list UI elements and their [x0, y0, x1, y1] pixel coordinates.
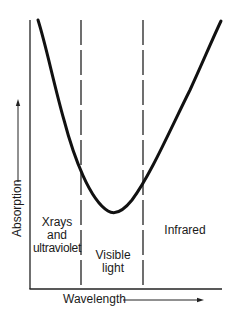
y-arrow-head-icon: [16, 99, 20, 106]
region-label-line: Infrared: [155, 224, 215, 237]
region-label-xray-uv: Xrays and ultraviolet: [31, 216, 83, 255]
region-label-visible: Visible light: [84, 249, 142, 275]
x-arrow-head-icon: [197, 298, 204, 302]
y-axis-label: Absorption: [11, 180, 24, 237]
region-label-line: light: [84, 262, 142, 275]
absorption-curve: [38, 20, 221, 213]
x-axis-label: Wavelength: [63, 293, 126, 306]
region-label-line: ultraviolet: [31, 242, 83, 255]
region-label-infrared: Infrared: [155, 224, 215, 237]
